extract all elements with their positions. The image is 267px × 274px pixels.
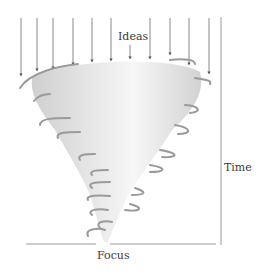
time-label: Time	[224, 161, 252, 174]
focus-label: Focus	[97, 249, 130, 262]
tornado-funnel	[20, 59, 210, 242]
ideas-label: Ideas	[118, 30, 148, 43]
